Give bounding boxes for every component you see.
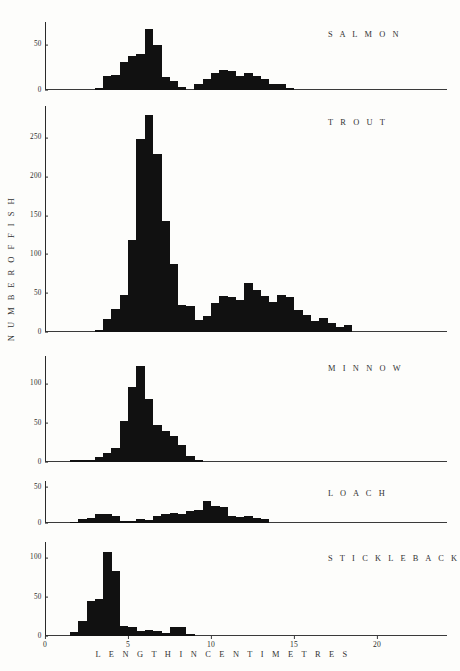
panel-loach: 050L O A C H xyxy=(0,481,446,523)
panel-stickleback: 05010005101520S T I C K L E B A C K xyxy=(0,542,446,636)
species-label-salmon: S A L M O N xyxy=(328,30,401,39)
y-tick-label: 0 xyxy=(38,328,45,335)
histogram-bar xyxy=(261,519,270,523)
x-tick-label: 5 xyxy=(126,636,130,649)
y-tick-label: 0 xyxy=(38,519,45,526)
y-tick-label: 50 xyxy=(34,419,45,426)
x-tick-label: 15 xyxy=(290,636,298,649)
x-tick-label: 10 xyxy=(207,636,215,649)
y-tick-label: 100 xyxy=(30,250,45,257)
panel-salmon: 050S A L M O N xyxy=(0,22,446,90)
y-tick-label: 250 xyxy=(30,134,45,141)
species-label-minnow: M I N N O W xyxy=(328,364,403,373)
histogram-bar xyxy=(186,634,195,636)
y-tick-label: 50 xyxy=(34,41,45,48)
plot-area: 050100150200250 xyxy=(45,106,447,332)
y-tick-label: 50 xyxy=(34,289,45,296)
y-tick-label: 50 xyxy=(34,593,45,600)
y-tick-label: 0 xyxy=(38,86,45,93)
histogram-bar xyxy=(178,87,187,90)
species-label-loach: L O A C H xyxy=(328,489,387,498)
histogram-bars xyxy=(45,481,447,523)
histogram-bar xyxy=(286,88,295,90)
y-tick-label: 0 xyxy=(38,458,45,465)
histogram-bar xyxy=(194,460,203,462)
x-axis-label: L E N G T H I N C E N T I M E T R E S xyxy=(0,650,446,659)
plot-area: 050 xyxy=(45,481,447,523)
species-label-trout: T R O U T xyxy=(328,118,387,127)
histogram-bars xyxy=(45,106,447,332)
histogram-bar xyxy=(344,325,353,332)
panel-minnow: 050100M I N N O W xyxy=(0,356,446,462)
x-tick-label: 0 xyxy=(43,636,47,649)
panel-trout: 050100150200250T R O U T xyxy=(0,106,446,332)
y-tick-label: 200 xyxy=(30,173,45,180)
species-label-stickleback: S T I C K L E B A C K xyxy=(328,554,460,563)
y-tick-label: 100 xyxy=(30,380,45,387)
y-tick-label: 150 xyxy=(30,212,45,219)
y-tick-label: 100 xyxy=(30,554,45,561)
y-tick-label: 50 xyxy=(34,483,45,490)
x-tick-label: 20 xyxy=(373,636,381,649)
